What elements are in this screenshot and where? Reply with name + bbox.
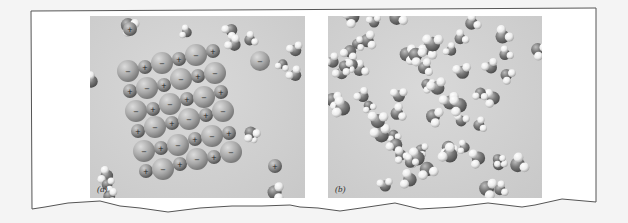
svg-text:+: +: [161, 82, 167, 90]
svg-text:−: −: [228, 149, 234, 157]
svg-text:−: −: [186, 116, 192, 124]
svg-text:+: +: [177, 161, 183, 169]
ionic-crystal-illustration: +−+−+−−+−+−++−+−+−−+−+−++−+−+−−+−+−++−+: [90, 16, 305, 198]
svg-text:−: −: [194, 156, 200, 164]
svg-text:−: −: [159, 60, 165, 68]
svg-text:−: −: [133, 108, 139, 116]
molecules-in-water-illustration: [328, 16, 542, 198]
svg-text:+: +: [218, 89, 224, 97]
panel-label-b: (b): [335, 184, 346, 194]
svg-text:+: +: [142, 64, 148, 72]
panel-b-molecular-dissolution: (b): [328, 16, 542, 198]
svg-text:+: +: [150, 106, 156, 114]
svg-text:−: −: [152, 124, 158, 132]
svg-text:−: −: [167, 101, 173, 109]
panel-a-ionic-dissolution: +−+−+−−+−+−++−+−+−−+−+−++−+−+−−+−+−++−+ …: [90, 16, 305, 198]
panel-label-a: (a): [97, 184, 108, 194]
svg-text:+: +: [158, 145, 164, 153]
svg-text:−: −: [160, 166, 166, 174]
svg-text:+: +: [272, 163, 278, 171]
svg-text:+: +: [226, 130, 232, 138]
svg-text:+: +: [135, 128, 141, 136]
svg-text:−: −: [201, 94, 207, 102]
figure: +−+−+−−+−+−++−+−+−−+−+−++−+−+−−+−+−++−+ …: [0, 0, 628, 223]
svg-text:+: +: [169, 120, 175, 128]
svg-text:+: +: [203, 112, 209, 120]
svg-text:−: −: [193, 52, 199, 60]
svg-text:+: +: [184, 96, 190, 104]
svg-text:−: −: [125, 68, 131, 76]
svg-text:−: −: [220, 108, 226, 116]
svg-text:+: +: [176, 56, 182, 64]
svg-text:+: +: [210, 48, 216, 56]
svg-text:−: −: [257, 58, 263, 66]
svg-text:−: −: [144, 85, 150, 93]
svg-text:+: +: [143, 168, 149, 176]
svg-text:+: +: [127, 88, 133, 96]
svg-text:−: −: [212, 70, 218, 78]
svg-text:+: +: [211, 154, 217, 162]
svg-text:−: −: [178, 76, 184, 84]
svg-text:−: −: [209, 133, 215, 141]
svg-text:+: +: [195, 73, 201, 81]
svg-text:−: −: [141, 148, 147, 156]
svg-text:+: +: [127, 26, 133, 34]
svg-text:−: −: [175, 142, 181, 150]
svg-text:+: +: [192, 136, 198, 144]
